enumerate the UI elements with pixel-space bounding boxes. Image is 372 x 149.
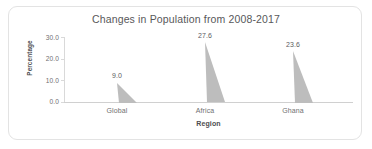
bar-africa bbox=[205, 42, 225, 102]
x-tick-label-africa: Africa bbox=[170, 107, 240, 114]
y-tick-label-0: 0.0 bbox=[35, 98, 59, 105]
x-axis-title: Region bbox=[64, 120, 353, 127]
bar-global bbox=[117, 83, 137, 103]
y-tick-label-10: 10.0 bbox=[35, 77, 59, 84]
population-change-bar-chart: Changes in Population from 2008-2017 Per… bbox=[9, 7, 363, 141]
y-tick-label-30: 30.0 bbox=[35, 34, 59, 41]
data-label-africa: 27.6 bbox=[188, 32, 222, 39]
x-tick-label-global: Global bbox=[82, 107, 152, 114]
x-tick-label-ghana: Ghana bbox=[258, 107, 328, 114]
data-label-global: 9.0 bbox=[100, 72, 134, 79]
chart-title: Changes in Population from 2008-2017 bbox=[9, 13, 363, 25]
data-label-ghana: 23.6 bbox=[276, 41, 310, 48]
y-axis-tick-labels: 30.0 20.0 10.0 0.0 bbox=[31, 7, 59, 141]
chart-card: Changes in Population from 2008-2017 Per… bbox=[8, 6, 362, 140]
bar-ghana bbox=[293, 51, 313, 102]
y-tick-label-20: 20.0 bbox=[35, 55, 59, 62]
